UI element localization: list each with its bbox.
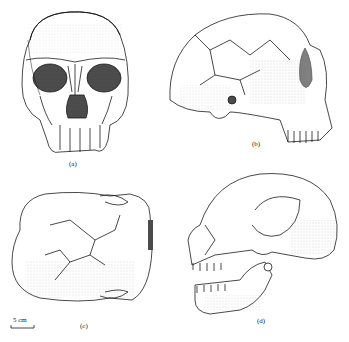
scale-bar-label: 5 cm: [13, 316, 27, 324]
scale-bar: [11, 325, 34, 328]
panel-label-b: (b): [252, 140, 260, 148]
panel-label-d: (d): [257, 317, 265, 325]
skull-superior-view: [12, 192, 153, 301]
skull-lateral-with-mandible: [188, 174, 337, 314]
skull-frontal-view: [22, 12, 128, 153]
skull-lateral-cranium: [170, 14, 332, 143]
panel-label-a: (a): [69, 160, 77, 168]
panel-label-c: (c): [80, 322, 88, 330]
skull-illustration: [0, 0, 349, 342]
